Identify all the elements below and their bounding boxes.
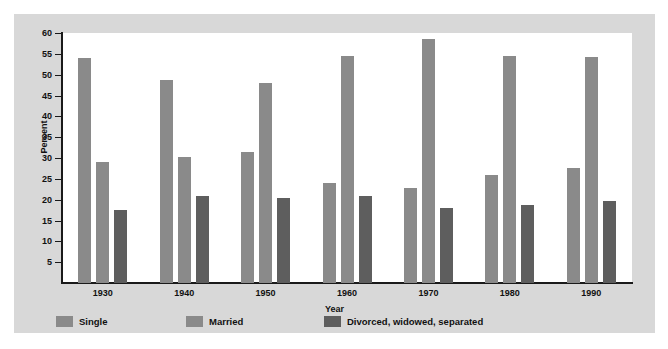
y-axis-tick: [55, 96, 62, 97]
bar: [114, 210, 127, 283]
y-axis-title: Percent: [39, 97, 49, 177]
bar: [503, 56, 516, 283]
y-axis-tick: [55, 200, 62, 201]
y-axis-tick-label: 5: [28, 257, 52, 267]
legend-label: Divorced, widowed, separated: [347, 316, 483, 327]
bar: [603, 201, 616, 284]
bar: [404, 188, 417, 283]
x-axis-tick-label: 1940: [154, 288, 214, 298]
y-axis-tick-label: 20: [28, 195, 52, 205]
bar: [359, 196, 372, 284]
y-axis-tick: [55, 179, 62, 180]
y-axis-tick-label: 60: [28, 28, 52, 38]
bar: [277, 198, 290, 283]
bar: [440, 208, 453, 283]
bar: [323, 183, 336, 283]
y-axis-tick-label: 15: [28, 216, 52, 226]
bar: [160, 80, 173, 283]
x-axis-title: Year: [14, 304, 655, 314]
y-axis-tick: [55, 221, 62, 222]
x-axis-tick-label: 1980: [480, 288, 540, 298]
bar: [341, 56, 354, 283]
x-axis-tick-label: 1970: [398, 288, 458, 298]
y-axis-tick: [55, 137, 62, 138]
bar: [178, 157, 191, 283]
y-axis-tick: [55, 158, 62, 159]
bar: [567, 168, 580, 283]
bar: [78, 58, 91, 283]
chart-figure: 51015202530354045505560 Percent 19301940…: [14, 14, 655, 333]
legend-item: Single: [56, 314, 108, 328]
x-axis-tick-label: 1950: [236, 288, 296, 298]
legend-label: Married: [209, 316, 243, 327]
legend-swatch: [56, 316, 73, 327]
x-axis-tick-label: 1990: [561, 288, 621, 298]
y-axis-tick: [55, 262, 62, 263]
y-axis-tick-label: 10: [28, 236, 52, 246]
legend-item: Married: [186, 314, 243, 328]
bar: [485, 175, 498, 283]
bar: [521, 205, 534, 283]
legend-swatch: [324, 316, 341, 327]
legend-swatch: [186, 316, 203, 327]
y-axis-tick: [55, 241, 62, 242]
bar: [585, 57, 598, 283]
y-axis-tick: [55, 116, 62, 117]
chart-legend: SingleMarriedDivorced, widowed, separate…: [14, 314, 655, 332]
bar: [241, 152, 254, 283]
y-axis-tick: [55, 54, 62, 55]
bar: [96, 162, 109, 283]
legend-label: Single: [79, 316, 108, 327]
bar: [259, 83, 272, 283]
x-axis-tick-label: 1930: [73, 288, 133, 298]
bar: [422, 39, 435, 283]
y-axis-tick-label: 55: [28, 49, 52, 59]
bar: [196, 196, 209, 284]
y-axis-tick-label: 50: [28, 70, 52, 80]
x-axis-tick-label: 1960: [317, 288, 377, 298]
legend-item: Divorced, widowed, separated: [324, 314, 483, 328]
y-axis-tick: [55, 33, 62, 34]
y-axis-tick: [55, 75, 62, 76]
